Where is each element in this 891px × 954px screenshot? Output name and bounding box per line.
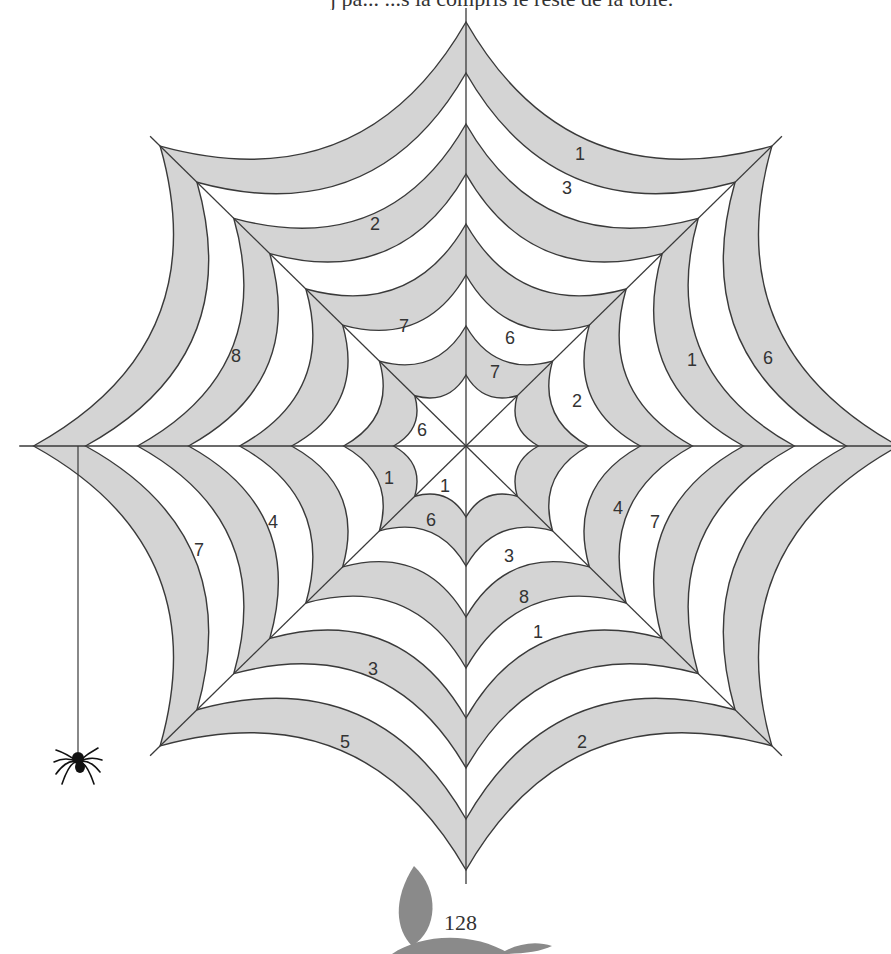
coloring-page: j pa... ...s la compris le reste de la t… (0, 0, 891, 954)
color-number-label: 6 (426, 510, 436, 530)
leaf-shape (399, 866, 433, 946)
color-number-label: 7 (194, 540, 204, 560)
color-number-label: 8 (231, 346, 241, 366)
spider-web-illustration: 132786721661164747381352 (0, 0, 891, 954)
color-number-label: 6 (763, 348, 773, 368)
color-number-label: 1 (533, 622, 543, 642)
color-number-label: 7 (399, 316, 409, 336)
color-number-label: 6 (417, 420, 427, 440)
color-number-label: 6 (505, 328, 515, 348)
color-number-label: 4 (613, 498, 623, 518)
color-number-label: 3 (368, 659, 378, 679)
color-number-label: 2 (572, 391, 582, 411)
color-number-label: 7 (490, 362, 500, 382)
color-number-label: 3 (562, 178, 572, 198)
color-number-label: 1 (575, 144, 585, 164)
color-number-label: 3 (504, 546, 514, 566)
color-number-label: 8 (519, 587, 529, 607)
leaf-small (500, 943, 552, 954)
color-number-label: 1 (440, 476, 450, 496)
color-number-label: 2 (370, 214, 380, 234)
color-number-label: 2 (577, 732, 587, 752)
color-number-label: 5 (340, 732, 350, 752)
spider-abdomen (75, 761, 85, 773)
color-number-label: 4 (268, 512, 278, 532)
spider-icon (54, 446, 102, 784)
color-number-label: 1 (384, 468, 394, 488)
color-number-label: 1 (687, 350, 697, 370)
color-number-label: 7 (650, 512, 660, 532)
page-number: 128 (444, 910, 477, 936)
